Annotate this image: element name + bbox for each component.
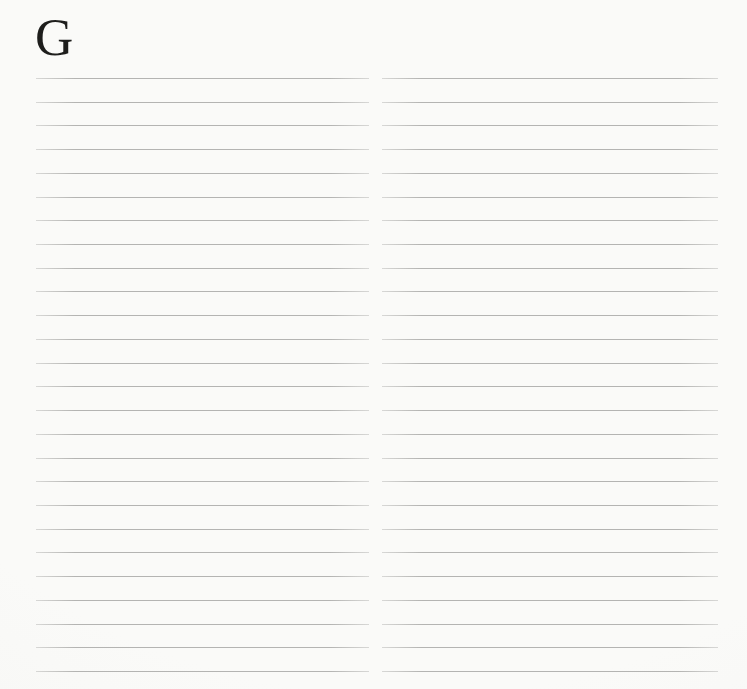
ruled-line xyxy=(382,505,718,529)
ruled-line xyxy=(36,149,369,173)
ruled-line xyxy=(382,458,718,482)
ruled-lines-left-column xyxy=(36,78,369,689)
ruled-line xyxy=(382,78,718,102)
ruled-line xyxy=(36,78,369,102)
ruled-line xyxy=(36,291,369,315)
ruled-line xyxy=(36,647,369,671)
ruled-line xyxy=(382,600,718,624)
ruled-line xyxy=(36,339,369,363)
ruled-line xyxy=(36,434,369,458)
ruled-line xyxy=(36,244,369,268)
ruled-line xyxy=(382,624,718,648)
ruled-line xyxy=(36,125,369,149)
ruled-line xyxy=(36,102,369,126)
ruled-line xyxy=(382,529,718,553)
ruled-line xyxy=(36,481,369,505)
ruled-line xyxy=(382,647,718,671)
ruled-line xyxy=(36,576,369,600)
ruled-line xyxy=(382,481,718,505)
ruled-line xyxy=(382,363,718,387)
section-letter-heading: G xyxy=(35,11,73,64)
address-book-page: G xyxy=(0,0,747,689)
ruled-line xyxy=(36,173,369,197)
ruled-line xyxy=(36,220,369,244)
ruled-line xyxy=(36,458,369,482)
ruled-line xyxy=(36,624,369,648)
ruled-line xyxy=(382,339,718,363)
ruled-line xyxy=(382,220,718,244)
ruled-line xyxy=(382,671,718,689)
ruled-line xyxy=(36,386,369,410)
ruled-line xyxy=(36,529,369,553)
ruled-line xyxy=(36,197,369,221)
ruled-line xyxy=(382,102,718,126)
ruled-line xyxy=(36,671,369,689)
ruled-line xyxy=(382,125,718,149)
ruled-line xyxy=(36,600,369,624)
ruled-line xyxy=(36,268,369,292)
ruled-line xyxy=(36,315,369,339)
ruled-line xyxy=(382,173,718,197)
ruled-line xyxy=(382,315,718,339)
ruled-line xyxy=(382,552,718,576)
ruled-line xyxy=(382,197,718,221)
ruled-line xyxy=(382,386,718,410)
ruled-line xyxy=(36,505,369,529)
ruled-line xyxy=(382,268,718,292)
ruled-line xyxy=(382,244,718,268)
ruled-line xyxy=(382,434,718,458)
ruled-line xyxy=(382,149,718,173)
ruled-line xyxy=(382,576,718,600)
ruled-line xyxy=(36,552,369,576)
ruled-line xyxy=(382,410,718,434)
ruled-lines-right-column xyxy=(382,78,718,689)
ruled-line xyxy=(36,363,369,387)
ruled-line xyxy=(382,291,718,315)
ruled-line xyxy=(36,410,369,434)
